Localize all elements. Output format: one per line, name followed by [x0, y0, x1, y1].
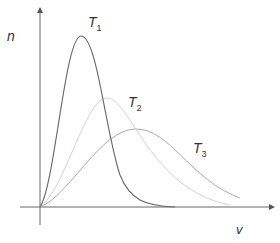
distribution-diagram — [0, 0, 280, 243]
label-t2: T2 — [128, 94, 142, 113]
curve-t3 — [40, 129, 240, 207]
curve-t1 — [40, 36, 175, 207]
x-axis-label: v — [236, 222, 243, 237]
label-t1: T1 — [88, 14, 102, 33]
y-axis-label: n — [7, 28, 15, 44]
label-t3: T3 — [193, 140, 207, 159]
